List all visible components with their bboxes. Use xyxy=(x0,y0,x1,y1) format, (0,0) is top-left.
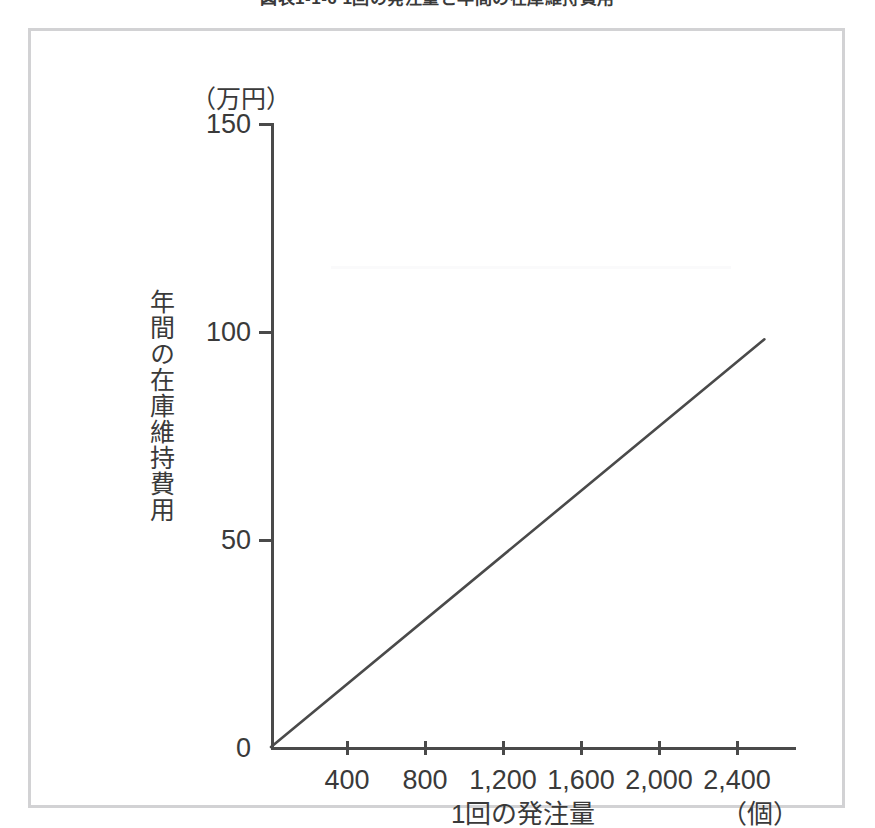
figure-screenshot: 図表1-1-6 1回の発注量と年間の在庫維持費用 （万円） 年間の在庫維持費用 … xyxy=(0,0,875,828)
data-series-line xyxy=(271,339,764,747)
plot-area xyxy=(31,31,848,811)
figure-title: 図表1-1-6 1回の発注量と年間の在庫維持費用 xyxy=(0,0,875,9)
figure-frame: （万円） 年間の在庫維持費用 150 100 50 0 400 800 1,20… xyxy=(28,28,845,808)
